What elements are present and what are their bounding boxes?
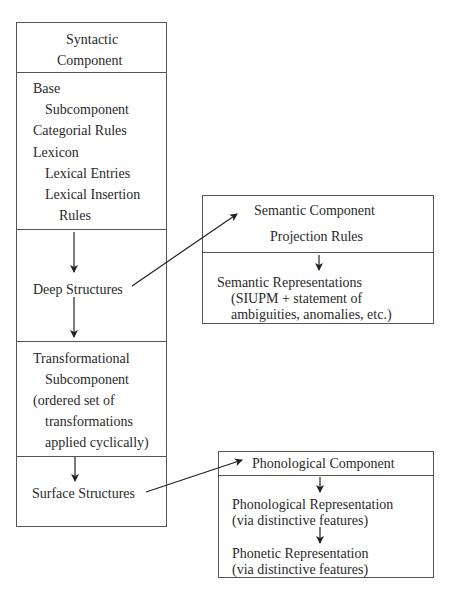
semantic-component-box: Semantic Component Projection Rules Sema… — [202, 195, 434, 324]
phonetic-rep-line2: (via distinctive features) — [232, 562, 368, 578]
lexicon-label: Lexicon — [33, 145, 79, 161]
base-label: Base — [33, 81, 60, 97]
semantic-rep-section: Semantic Representations (SIUPM + statem… — [203, 252, 433, 324]
subcomponent-label: Subcomponent — [45, 102, 129, 118]
lexical-entries-label: Lexical Entries — [45, 166, 130, 182]
categorial-rules-label: Categorial Rules — [33, 123, 127, 139]
syntactic-title-line2: Component — [57, 53, 122, 69]
phonological-component-box: Phonological Component Phonological Repr… — [218, 451, 434, 578]
syntactic-header: Syntactic Component — [17, 23, 166, 73]
semantic-rep-line2: (SIUPM + statement of — [231, 291, 362, 307]
base-subcomponent-section: Base Subcomponent Categorial Rules Lexic… — [17, 72, 166, 230]
rules-label: Rules — [59, 208, 91, 224]
phonological-rep-section: Phonological Representation (via distinc… — [219, 475, 433, 578]
transformations-label: transformations — [45, 414, 133, 430]
syntactic-component-box: Syntactic Component Base Subcomponent Ca… — [16, 22, 167, 527]
surface-structures-label: Surface Structures — [32, 486, 135, 502]
transformational-section: Transformational Subcomponent (ordered s… — [17, 341, 166, 458]
transformational-label: Transformational — [33, 351, 130, 367]
deep-structures-section: Deep Structures — [17, 229, 166, 342]
trans-subcomponent-label: Subcomponent — [45, 372, 129, 388]
ordered-set-label: (ordered set of — [33, 393, 115, 409]
syntactic-title-line1: Syntactic — [66, 32, 118, 48]
lexical-insertion-label: Lexical Insertion — [45, 187, 140, 203]
semantic-title: Semantic Component — [254, 203, 375, 219]
applied-cyclically-label: applied cyclically) — [45, 435, 149, 451]
projection-rules-label: Projection Rules — [270, 229, 363, 245]
deep-structures-label: Deep Structures — [33, 282, 123, 298]
phonological-title: Phonological Component — [252, 456, 395, 472]
semantic-rep-line1: Semantic Representations — [217, 275, 362, 291]
phonological-header: Phonological Component — [219, 452, 433, 476]
semantic-header: Semantic Component Projection Rules — [203, 196, 433, 252]
phonological-rep-line1: Phonological Representation — [232, 497, 393, 513]
phonetic-rep-line1: Phonetic Representation — [232, 546, 368, 562]
surface-structures-section: Surface Structures — [17, 456, 166, 528]
semantic-rep-line3: ambiguities, anomalies, etc.) — [231, 307, 392, 323]
phonological-rep-line2: (via distinctive features) — [232, 513, 368, 529]
